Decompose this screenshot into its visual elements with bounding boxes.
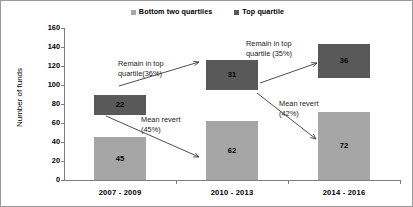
bar-value-top-quartile-2007-2009: 22 [116, 101, 124, 109]
legend-label-top-quartile: Top quartile [242, 8, 284, 16]
y-tick-label-20: 20 [52, 157, 60, 165]
legend-item-bottom-two-quartiles[interactable]: Bottom two quartiles [131, 8, 212, 16]
chart-figure: Bottom two quartiles Top quartile Number… [0, 0, 413, 207]
x-tick-label-2010-2013: 2010 - 2013 [211, 188, 254, 197]
chart-legend: Bottom two quartiles Top quartile [1, 5, 413, 19]
y-tick-mark [61, 123, 64, 124]
y-tick-label-160: 160 [48, 24, 60, 32]
annotation-remain-top-quartile-35: Remain in top quartile (35%) [246, 39, 292, 58]
bar-value-top-quartile-2014-2016: 36 [340, 57, 348, 65]
bar-bottom-two-quartiles-2014-2016[interactable]: 72 [318, 112, 370, 180]
y-tick-label-100: 100 [48, 81, 60, 89]
y-tick-label-140: 140 [48, 43, 60, 51]
y-tick-label-60: 60 [52, 119, 60, 127]
y-tick-mark [61, 47, 64, 48]
x-tick-mark [176, 180, 177, 184]
bar-value-top-quartile-2010-2013: 31 [228, 71, 236, 79]
x-tick-label-2007-2009: 2007 - 2009 [99, 188, 142, 197]
y-tick-mark [61, 85, 64, 86]
legend-item-top-quartile[interactable]: Top quartile [234, 8, 284, 16]
y-tick-mark [61, 66, 64, 67]
y-tick-mark [61, 104, 64, 105]
bar-top-quartile-2014-2016[interactable]: 36 [318, 44, 370, 78]
y-tick-label-80: 80 [52, 100, 60, 108]
bar-top-quartile-2007-2009[interactable]: 22 [94, 95, 146, 116]
bar-bottom-two-quartiles-2010-2013[interactable]: 62 [206, 121, 258, 180]
bar-top-quartile-2010-2013[interactable]: 31 [206, 60, 258, 89]
bar-value-bottom-two-quartiles-2010-2013: 62 [228, 147, 236, 155]
annotation-mean-revert-42: Mean revert (42%) [279, 99, 318, 118]
y-axis-line [64, 28, 65, 180]
bar-bottom-two-quartiles-2007-2009[interactable]: 45 [94, 137, 146, 180]
y-tick-label-120: 120 [48, 62, 60, 70]
annotation-remain-top-quartile-36: Remain in top quartile(36%) [118, 59, 164, 78]
bar-value-bottom-two-quartiles-2014-2016: 72 [340, 142, 348, 150]
y-tick-mark [61, 28, 64, 29]
y-axis-title: Number of funds [15, 48, 24, 148]
annotation-mean-revert-45: Mean revert (45%) [141, 115, 180, 134]
x-tick-label-2014-2016: 2014 - 2016 [323, 188, 366, 197]
legend-label-bottom-two-quartiles: Bottom two quartiles [139, 8, 212, 16]
y-tick-mark [61, 180, 64, 181]
legend-swatch-top-quartile [234, 10, 239, 15]
y-tick-label-40: 40 [52, 138, 60, 146]
x-axis-line [64, 180, 401, 181]
y-tick-mark [61, 161, 64, 162]
x-tick-mark [400, 180, 401, 184]
plot-area: 160 140 120 100 80 60 40 20 0 22 45 [64, 28, 401, 180]
y-tick-label-0: 0 [56, 176, 60, 184]
legend-swatch-bottom-two-quartiles [131, 10, 136, 15]
x-tick-mark [288, 180, 289, 184]
bar-value-bottom-two-quartiles-2007-2009: 45 [116, 155, 124, 163]
y-tick-mark [61, 142, 64, 143]
